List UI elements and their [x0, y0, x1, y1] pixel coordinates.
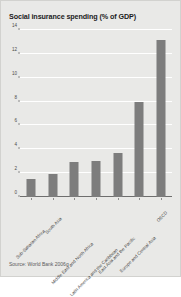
bar-slot	[129, 30, 151, 197]
x-tick-mark	[139, 198, 140, 200]
x-tick-mark	[118, 198, 119, 200]
source-note: Source: World Bank 2006g	[9, 261, 69, 267]
y-tick-label: 4	[14, 142, 17, 147]
bar[interactable]	[48, 174, 57, 197]
bar-slot	[20, 30, 42, 197]
bar-slot	[107, 30, 129, 197]
x-label-slot: Sub-Saharan Africa	[20, 198, 42, 256]
bar-slot	[85, 30, 107, 197]
x-tick-mark	[74, 198, 75, 200]
bar[interactable]	[135, 102, 144, 197]
y-tick-label: 10	[12, 70, 17, 75]
x-label-slot: Middle East and North Africa	[63, 198, 85, 256]
bar[interactable]	[26, 179, 35, 197]
y-tick-label: 14	[12, 23, 17, 28]
y-tick-label: 0	[14, 190, 17, 195]
bar[interactable]	[113, 153, 122, 197]
x-label-slot: Latin America and the Caribbean	[85, 198, 107, 256]
bar[interactable]	[157, 40, 166, 197]
x-tick-label: OECD	[156, 210, 169, 223]
x-label-slot: South Asia	[42, 198, 64, 256]
x-tick-mark	[96, 198, 97, 200]
x-label-slot: OECD	[150, 198, 172, 256]
y-tick-label: 2	[14, 166, 17, 171]
x-label-slot: East Asia and the Pacific	[107, 198, 129, 256]
x-tick-mark	[53, 198, 54, 200]
bar-slot	[150, 30, 172, 197]
y-tick-label: 6	[14, 118, 17, 123]
bars-layer	[20, 30, 172, 197]
bar[interactable]	[70, 162, 79, 197]
x-label-slot: Europe and Central Asia	[129, 198, 151, 256]
chart-title: Social insurance spending (% of GDP)	[9, 12, 136, 21]
bar[interactable]	[91, 161, 100, 197]
y-tick-label: 12	[12, 46, 17, 51]
bar-slot	[63, 30, 85, 197]
x-tick-label: South Asia	[44, 216, 63, 235]
x-axis-labels: Sub-Saharan AfricaSouth AsiaMiddle East …	[20, 198, 172, 256]
plot-area: 02468101214	[20, 30, 172, 197]
x-tick-mark	[161, 198, 162, 200]
x-tick-mark	[31, 198, 32, 200]
bar-slot	[42, 30, 64, 197]
y-tick-label: 8	[14, 94, 17, 99]
